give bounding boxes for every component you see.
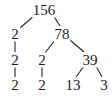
node-2-level2-left: 2 <box>10 53 20 68</box>
edge-39-3 <box>96 66 102 77</box>
edge-78-39 <box>70 40 84 52</box>
node-2-level3-left: 2 <box>10 78 20 93</box>
node-78: 78 <box>54 27 71 42</box>
edge-39-13 <box>76 66 84 77</box>
node-13: 13 <box>65 78 82 93</box>
node-156: 156 <box>32 3 57 18</box>
node-2-level1: 2 <box>10 27 20 42</box>
node-39: 39 <box>82 53 99 68</box>
node-2-level3-mid: 2 <box>37 78 47 93</box>
edge-78-2 <box>45 40 55 53</box>
factor-tree-diagram: 156 2 78 2 2 39 2 2 13 3 <box>0 0 112 106</box>
node-3: 3 <box>99 78 109 93</box>
node-2-level2-mid: 2 <box>37 53 47 68</box>
